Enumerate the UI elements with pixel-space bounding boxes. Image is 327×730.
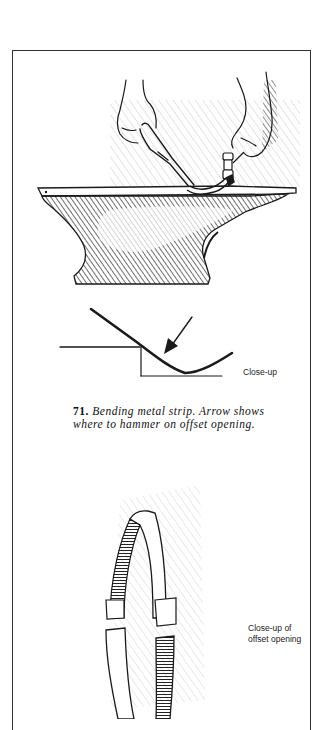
figure-caption: 71. Bending metal strip. Arrow shows whe… [73,405,293,431]
closeup-label: Close-up [243,367,277,377]
arrow-icon [164,317,192,354]
anvil-illustration [38,72,300,284]
caption-text-line2: where to hammer on offset opening. [73,418,293,431]
caption-line1: 71. Bending metal strip. Arrow shows [73,405,293,418]
offset-closeup-label-line2: offset opening [248,634,301,644]
figure-number: 71. [73,405,89,417]
right-hand-shading [262,80,278,152]
caption-text-line1: Bending metal strip. Arrow shows [92,405,264,417]
offset-ring-illustration [106,485,205,719]
closeup-bend-diagram [60,309,232,376]
anvil-icon [38,186,296,284]
offset-closeup-label-line1: Close-up of [248,623,291,633]
